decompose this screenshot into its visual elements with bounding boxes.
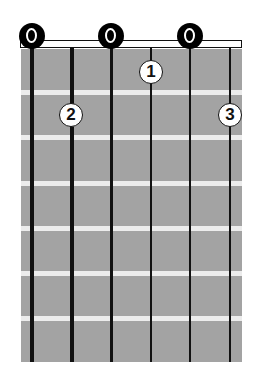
open-string-icon-1 <box>19 23 45 49</box>
fret-2 <box>21 135 242 140</box>
finger-marker-3: 3 <box>218 103 242 127</box>
finger-marker-1: 1 <box>139 60 163 84</box>
string-1 <box>30 48 34 362</box>
open-string-icon-5 <box>177 23 203 49</box>
string-2 <box>70 48 74 362</box>
string-4 <box>150 48 153 362</box>
string-5 <box>189 48 191 362</box>
finger-marker-2: 2 <box>59 103 83 127</box>
nut <box>20 40 242 48</box>
fret-5 <box>21 271 242 276</box>
fret-3 <box>21 181 242 186</box>
string-3 <box>110 48 113 362</box>
fret-6 <box>21 316 242 321</box>
open-string-icon-3 <box>98 23 124 49</box>
fret-4 <box>21 226 242 231</box>
fret-1 <box>21 90 242 95</box>
string-6 <box>229 48 231 362</box>
